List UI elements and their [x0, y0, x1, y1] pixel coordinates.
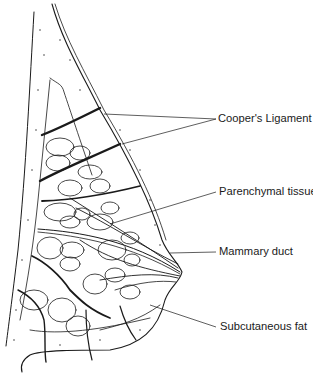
leader-coopers-1 [104, 114, 216, 119]
chest-wall-outline [6, 12, 34, 346]
label-coopers-ligament: Cooper's Ligament [218, 113, 312, 124]
label-subcutaneous-fat: Subcutaneous fat [220, 321, 307, 332]
label-parenchymal-tissue: Parenchymal tissue [219, 186, 313, 197]
skin-outer-outline [21, 4, 182, 372]
coopers-ligament-lower [42, 186, 140, 201]
leader-parenchymal [110, 192, 216, 224]
leader-mammary-duct [170, 252, 216, 253]
mammary-duct [38, 229, 180, 272]
leader-coopers-2 [122, 119, 216, 144]
label-mammary-duct: Mammary duct [219, 246, 293, 257]
